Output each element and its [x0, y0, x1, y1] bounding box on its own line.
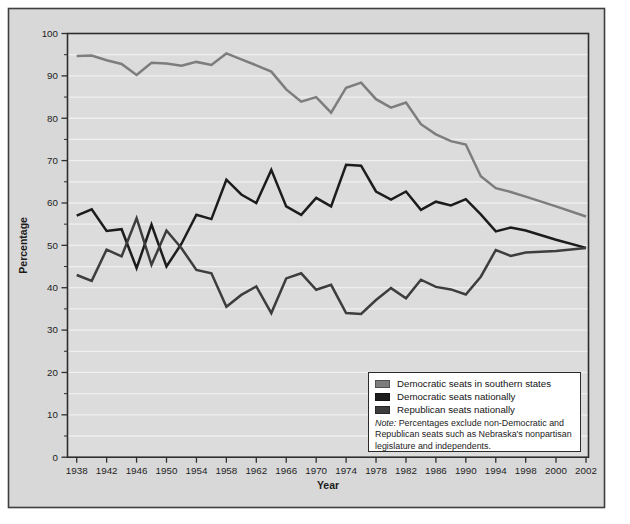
x-tick-label-1974: 1974	[335, 465, 357, 476]
legend-note-text: Percentages exclude non-Democratic and R…	[375, 418, 572, 451]
x-tick-label-1954: 1954	[186, 465, 208, 476]
legend-swatch-dem-south	[375, 380, 390, 388]
legend-note-prefix: Note:	[375, 418, 396, 428]
x-tick-label-1958: 1958	[215, 465, 237, 476]
legend-box: Democratic seats in southern states Demo…	[368, 372, 581, 452]
x-tick-label-1962: 1962	[245, 465, 267, 476]
y-tick-label-10: 10	[47, 409, 58, 420]
y-tick-label-80: 80	[47, 113, 58, 124]
x-tick-label-1938: 1938	[66, 465, 88, 476]
x-tick-label-1970: 1970	[305, 465, 327, 476]
y-tick-label-50: 50	[47, 240, 58, 251]
x-tick-label-2002: 2002	[575, 465, 597, 476]
y-axis-title: Percentage	[17, 217, 29, 274]
x-axis-title: Year	[317, 479, 339, 491]
legend-label-dem-south: Democratic seats in southern states	[397, 378, 551, 389]
y-tick-label-30: 30	[47, 324, 58, 335]
y-tick-label-90: 90	[47, 70, 58, 81]
x-tick-label-1982: 1982	[395, 465, 417, 476]
y-tick-label-40: 40	[47, 282, 58, 293]
legend-swatch-dem-national	[375, 393, 390, 401]
x-tick-label-2000: 2000	[545, 465, 567, 476]
legend-item-dem-national: Democratic seats nationally	[375, 390, 575, 403]
x-tick-label-1994: 1994	[485, 465, 507, 476]
y-tick-label-70: 70	[47, 155, 58, 166]
figure-page: 0102030405060708090100193819421946195019…	[0, 0, 630, 524]
legend-item-rep-national: Republican seats nationally	[375, 403, 575, 416]
x-tick-label-1978: 1978	[365, 465, 387, 476]
legend-label-dem-national: Democratic seats nationally	[397, 391, 515, 402]
y-tick-label-60: 60	[47, 197, 58, 208]
legend-label-rep-national: Republican seats nationally	[397, 404, 515, 415]
x-tick-label-1942: 1942	[96, 465, 118, 476]
legend-note: Note: Percentages exclude non-Democratic…	[375, 418, 575, 452]
x-tick-label-1986: 1986	[425, 465, 447, 476]
y-tick-label-0: 0	[53, 452, 59, 463]
x-tick-label-1946: 1946	[126, 465, 148, 476]
legend-swatch-rep-national	[375, 406, 390, 414]
x-tick-label-1966: 1966	[275, 465, 297, 476]
x-tick-label-1998: 1998	[515, 465, 537, 476]
y-tick-label-20: 20	[47, 367, 58, 378]
y-tick-label-100: 100	[42, 28, 59, 39]
x-tick-label-1950: 1950	[156, 465, 178, 476]
x-tick-label-1990: 1990	[455, 465, 477, 476]
legend-item-dem-south: Democratic seats in southern states	[375, 377, 575, 390]
